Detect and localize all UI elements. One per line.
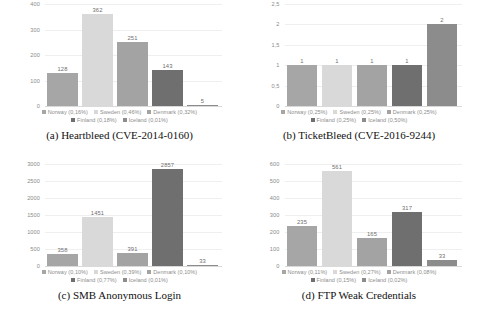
bar-column: 5 (187, 4, 218, 106)
legend-label: Sweden (0,39%) (100, 269, 141, 275)
bar-iceland (427, 260, 458, 266)
legend-swatch-icon (94, 110, 98, 114)
bar-norway (47, 254, 78, 266)
legend-b: Norway (0,25%)Sweden (0,25%)Denmark (0,2… (259, 109, 459, 123)
legend-item-finland: Finland (0,25%) (311, 117, 357, 123)
y-tick-label: 400 (270, 195, 280, 201)
bar-value-label: 5 (172, 98, 233, 104)
gridline (285, 106, 462, 107)
bar-value-label: 33 (411, 253, 472, 259)
y-axis-a: 0100200300400 (17, 4, 43, 106)
bar-sweden (82, 217, 113, 266)
legend-label: Sweden (0,27%) (339, 269, 380, 275)
legend-swatch-icon (281, 110, 285, 114)
gridline (285, 266, 462, 267)
y-tick-label: 0 (276, 103, 279, 109)
legend-d: Norway (0,11%)Sweden (0,27%)Denmark (0,0… (259, 269, 459, 283)
legend-item-iceland: Iceland (0,01%) (123, 277, 168, 283)
legend-item-denmark: Denmark (0,08%) (387, 269, 437, 275)
legend-label: Iceland (0,01%) (129, 277, 168, 283)
bar-denmark (117, 42, 148, 106)
legend-item-denmark: Denmark (0,25%) (387, 109, 437, 115)
chart-panel-d: 0100200300400500600 23556116531733 Norwa… (239, 160, 479, 322)
plot-area-a: 0100200300400 1283622511435 (17, 4, 222, 106)
legend-swatch-icon (42, 270, 46, 274)
y-tick-label: 0 (276, 263, 279, 269)
panel-caption-a: (a) Heartbleed (CVE-2014-0160) (46, 129, 193, 141)
bar-iceland (187, 265, 218, 266)
gridline (45, 106, 222, 107)
legend-label: Denmark (0,32%) (153, 109, 197, 115)
chart-panel-c: 050010001500200025003000 358145139128573… (0, 160, 239, 322)
legend-label: Denmark (0,10%) (153, 269, 197, 275)
legend-swatch-icon (147, 110, 151, 114)
bar-series-c: 3581451391285733 (45, 164, 220, 266)
y-axis-d: 0100200300400500600 (257, 164, 283, 266)
y-tick-label: 1500 (27, 212, 40, 218)
legend-item-norway: Norway (0,11%) (282, 269, 328, 275)
bar-value-label: 33 (172, 258, 233, 264)
chart-panel-a: 0100200300400 1283622511435 Norway (0,16… (0, 0, 239, 160)
legend-swatch-icon (311, 278, 315, 282)
legend-item-iceland: Iceland (0,02%) (362, 277, 407, 283)
legend-label: Norway (0,25%) (287, 109, 327, 115)
legend-swatch-icon (71, 278, 75, 282)
legend-label: Sweden (0,25%) (339, 109, 380, 115)
y-tick-label: 0 (37, 103, 40, 109)
legend-item-finland: Finland (0,15%) (311, 277, 357, 283)
bar-denmark (357, 238, 388, 266)
y-tick-label: 1000 (27, 229, 40, 235)
legend-swatch-icon (123, 118, 127, 122)
gridline (45, 266, 222, 267)
bar-column: 165 (357, 164, 388, 266)
legend-item-sweden: Sweden (0,39%) (94, 269, 141, 275)
legend-item-norway: Norway (0,25%) (281, 109, 327, 115)
legend-item-norway: Norway (0,16%) (42, 109, 88, 115)
y-tick-label: 100 (270, 246, 280, 252)
legend-item-denmark: Denmark (0,32%) (147, 109, 197, 115)
legend-item-iceland: Iceland (0,01%) (123, 117, 168, 123)
legend-label: Denmark (0,25%) (393, 109, 437, 115)
bar-finland (392, 65, 423, 106)
legend-swatch-icon (387, 110, 391, 114)
bar-finland (152, 169, 183, 266)
y-tick-label: 200 (270, 229, 280, 235)
y-tick-label: 3000 (27, 161, 40, 167)
y-tick-label: 0 (37, 263, 40, 269)
bar-column: 1 (322, 4, 353, 106)
bar-column: 317 (392, 164, 423, 266)
y-tick-label: 2 (276, 21, 279, 27)
legend-label: Finland (0,77%) (77, 277, 117, 283)
panel-caption-c: (c) SMB Anonymous Login (58, 289, 181, 301)
bar-column: 1 (357, 4, 388, 106)
legend-label: Sweden (0,46%) (100, 109, 141, 115)
legend-item-sweden: Sweden (0,27%) (333, 269, 380, 275)
figure-grid: 0100200300400 1283622511435 Norway (0,16… (0, 0, 479, 322)
bar-column: 362 (82, 4, 113, 106)
bar-series-a: 1283622511435 (45, 4, 220, 106)
legend-swatch-icon (362, 118, 366, 122)
bar-norway (287, 226, 318, 266)
bar-column: 391 (117, 164, 148, 266)
legend-item-sweden: Sweden (0,25%) (333, 109, 380, 115)
legend-swatch-icon (333, 270, 337, 274)
y-tick-label: 600 (270, 161, 280, 167)
legend-item-denmark: Denmark (0,10%) (147, 269, 197, 275)
bar-column: 143 (152, 4, 183, 106)
y-tick-label: 200 (30, 52, 40, 58)
legend-label: Finland (0,18%) (77, 117, 117, 123)
y-tick-label: 100 (30, 78, 40, 84)
y-tick-label: 1,5 (271, 42, 279, 48)
legend-swatch-icon (362, 278, 366, 282)
legend-label: Iceland (0,02%) (368, 277, 407, 283)
y-tick-label: 0,5 (271, 83, 279, 89)
legend-label: Norway (0,10%) (48, 269, 88, 275)
legend-swatch-icon (71, 118, 75, 122)
plot-area-c: 050010001500200025003000 358145139128573… (17, 164, 222, 266)
y-axis-b: 00,511,522,5 (257, 4, 283, 106)
bar-column: 235 (287, 164, 318, 266)
legend-item-finland: Finland (0,18%) (71, 117, 117, 123)
y-tick-label: 2500 (27, 178, 40, 184)
legend-item-norway: Norway (0,10%) (42, 269, 88, 275)
legend-swatch-icon (94, 270, 98, 274)
